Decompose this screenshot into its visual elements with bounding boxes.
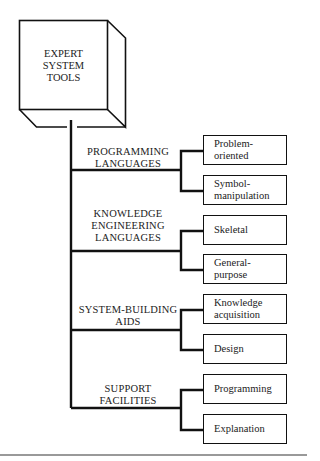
leaf-box-programming: Programming (203, 374, 287, 404)
cube-bottom-left (20, 110, 68, 128)
leaf-box-general-purpose: General- purpose (203, 254, 287, 284)
sub-branch-support-facilities (181, 390, 203, 430)
category-label-programming-languages: PROGRAMMING LANGUAGES (80, 146, 176, 170)
root-label: EXPERT SYSTEM TOOLS (20, 48, 107, 84)
category-label-knowledge-engineering-languages: KNOWLEDGE ENGINEERING LANGUAGES (78, 208, 178, 244)
leaf-box-symbol-manipulation: Symbol- manipulation (203, 175, 287, 205)
sub-branch-system-building (181, 310, 203, 350)
leaf-box-problem-oriented: Problem- oriented (203, 135, 287, 165)
cube-side-face (108, 21, 126, 128)
leaf-box-explanation: Explanation (203, 414, 287, 444)
category-label-system-building-aids: SYSTEM-BUILDING AIDS (72, 304, 184, 328)
leaf-box-design: Design (203, 334, 287, 364)
sub-branch-programming-languages (181, 151, 203, 191)
sub-branch-knowledge-engineering (181, 231, 203, 270)
leaf-box-knowledge-acquisition: Knowledge acquisition (203, 294, 287, 324)
leaf-box-skeletal: Skeletal (203, 215, 287, 245)
category-label-support-facilities: SUPPORT FACILITIES (80, 383, 176, 407)
